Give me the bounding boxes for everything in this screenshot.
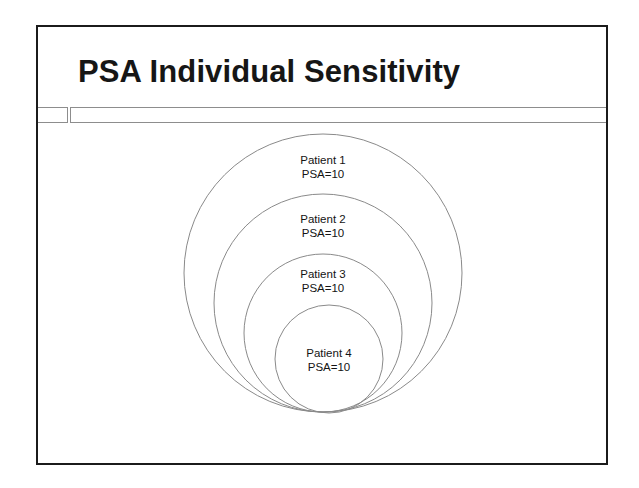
nested-circles-svg	[38, 27, 608, 465]
label-patient-3: Patient 3 PSA=10	[263, 267, 383, 295]
label-patient-1: Patient 1 PSA=10	[263, 153, 383, 181]
label-patient-3-name: Patient 3	[263, 267, 383, 281]
label-patient-4: Patient 4 PSA=10	[269, 346, 389, 374]
nested-circles-diagram: Patient 1 PSA=10 Patient 2 PSA=10 Patien…	[38, 27, 608, 465]
label-patient-1-value: PSA=10	[263, 167, 383, 181]
slide-canvas: PSA Individual Sensitivity Patient 1 PSA…	[36, 25, 608, 465]
label-patient-4-name: Patient 4	[269, 346, 389, 360]
label-patient-3-value: PSA=10	[263, 281, 383, 295]
label-patient-2-name: Patient 2	[263, 212, 383, 226]
label-patient-1-name: Patient 1	[263, 153, 383, 167]
label-patient-2: Patient 2 PSA=10	[263, 212, 383, 240]
label-patient-2-value: PSA=10	[263, 226, 383, 240]
label-patient-4-value: PSA=10	[269, 360, 389, 374]
